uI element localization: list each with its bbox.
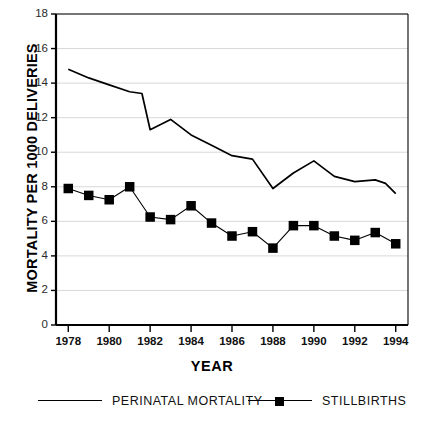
- series-marker-stillbirths: [371, 228, 381, 238]
- series-marker-stillbirths: [186, 201, 196, 211]
- y-tick-label: 4: [18, 250, 48, 262]
- legend-line-square-icon: [248, 394, 312, 408]
- legend-label-perinatal-mortality: PERINATAL MORTALITY: [112, 394, 263, 408]
- x-tick-label: 1988: [251, 336, 295, 348]
- series-marker-stillbirths: [268, 243, 278, 253]
- series-marker-stillbirths: [145, 212, 155, 222]
- series-marker-stillbirths: [207, 218, 217, 228]
- series-line-perinatal-mortality: [68, 69, 395, 193]
- series-marker-stillbirths: [104, 195, 114, 205]
- series-marker-stillbirths: [309, 221, 319, 231]
- legend-label-stillbirths: STILLBIRTHS: [322, 394, 406, 408]
- chart-legend: PERINATAL MORTALITY STILLBIRTHS: [0, 392, 424, 416]
- y-tick-label: 10: [18, 146, 48, 158]
- y-tick-label: 12: [18, 112, 48, 124]
- x-tick-label: 1994: [374, 336, 418, 348]
- series-marker-stillbirths: [350, 236, 360, 246]
- y-tick-label: 16: [18, 43, 48, 55]
- y-tick-label: 14: [18, 77, 48, 89]
- y-tick-label: 0: [18, 319, 48, 331]
- x-tick-label: 1990: [292, 336, 336, 348]
- series-marker-stillbirths: [166, 215, 176, 225]
- series-marker-stillbirths: [84, 191, 94, 201]
- legend-item-stillbirths: STILLBIRTHS: [248, 392, 406, 410]
- y-tick-label: 8: [18, 181, 48, 193]
- legend-line-icon: [38, 394, 102, 408]
- x-tick-label: 1982: [128, 336, 172, 348]
- chart-figure: MORTALITY PER 1000 DELIVERIES YEAR 02468…: [0, 0, 424, 426]
- series-marker-stillbirths: [248, 227, 258, 237]
- series-marker-stillbirths: [227, 231, 237, 241]
- plot-area: [0, 0, 424, 426]
- series-marker-stillbirths: [330, 231, 340, 241]
- y-tick-label: 2: [18, 284, 48, 296]
- y-tick-label: 6: [18, 215, 48, 227]
- series-marker-stillbirths: [391, 239, 401, 249]
- legend-item-perinatal-mortality: PERINATAL MORTALITY: [38, 392, 263, 410]
- x-tick-label: 1986: [210, 336, 254, 348]
- x-tick-label: 1980: [87, 336, 131, 348]
- y-tick-label: 18: [18, 8, 48, 20]
- x-tick-label: 1984: [169, 336, 213, 348]
- series-marker-stillbirths: [64, 184, 74, 194]
- series-marker-stillbirths: [289, 221, 299, 231]
- x-tick-label: 1992: [333, 336, 377, 348]
- x-tick-label: 1978: [46, 336, 90, 348]
- series-marker-stillbirths: [125, 182, 135, 192]
